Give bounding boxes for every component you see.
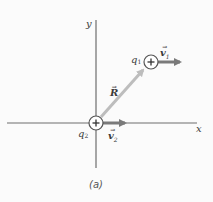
diagram-canvas: y x q1 q2 → R → v1 → v2 (a) [0,0,213,202]
figure-caption: (a) [89,179,103,190]
separation-vector-arrow [101,70,143,117]
q2-label: q2 [78,129,88,139]
vector-arrow-icon: → [160,44,170,50]
diagram-graphics [0,0,213,202]
separation-vector-label: → R [110,88,118,98]
velocity-label-v2: → v2 [108,131,118,143]
x-axis-label: x [196,124,202,134]
y-axis-label: y [86,19,92,29]
vector-arrow-icon: → [108,127,118,133]
charge-q2 [89,116,103,130]
v2-subscript: 2 [114,136,118,143]
vector-arrow-icon: → [110,84,118,90]
charge-q1 [144,55,158,69]
v1-subscript: 1 [166,53,170,60]
q1-label: q1 [131,55,141,65]
velocity-label-v1: → v1 [160,48,170,60]
q2-subscript: 2 [84,132,88,139]
q1-subscript: 1 [137,58,141,65]
